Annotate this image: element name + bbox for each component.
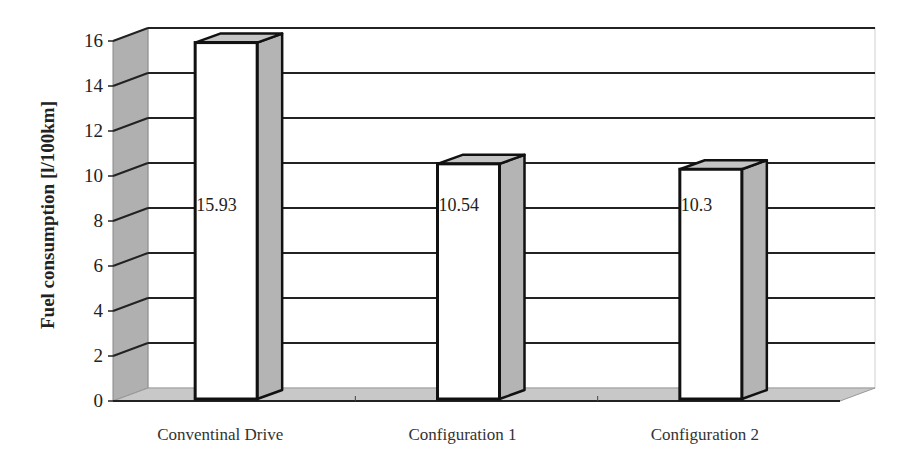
x-category-label: Conventinal Drive: [157, 425, 283, 444]
x-category-label: Configuration 1: [408, 425, 516, 444]
y-tick-label: 6: [94, 255, 104, 276]
bar-1: 10.54: [438, 155, 525, 399]
y-tick-label: 2: [94, 345, 104, 366]
y-tick-label: 4: [94, 300, 104, 321]
data-label: 10.54: [439, 195, 480, 215]
bar-2: 10.3: [680, 160, 767, 399]
x-axis-labels: Conventinal DriveConfiguration 1Configur…: [157, 425, 759, 444]
data-label: 15.93: [196, 195, 237, 215]
y-axis-title: Fuel consumption [l/100km]: [37, 101, 58, 329]
bar-0: 15.93: [195, 34, 282, 399]
y-tick-label: 16: [84, 30, 103, 51]
y-axis-ticks: 0246810121416: [84, 30, 113, 411]
y-tick-label: 10: [84, 165, 103, 186]
bar-chart: 15.9310.5410.3 0246810121416 Conventinal…: [0, 0, 912, 468]
y-tick-label: 0: [94, 390, 104, 411]
y-tick-label: 14: [84, 75, 104, 96]
y-tick-label: 8: [94, 210, 104, 231]
data-label: 10.3: [681, 195, 713, 215]
x-category-label: Configuration 2: [651, 425, 759, 444]
y-tick-label: 12: [84, 120, 103, 141]
